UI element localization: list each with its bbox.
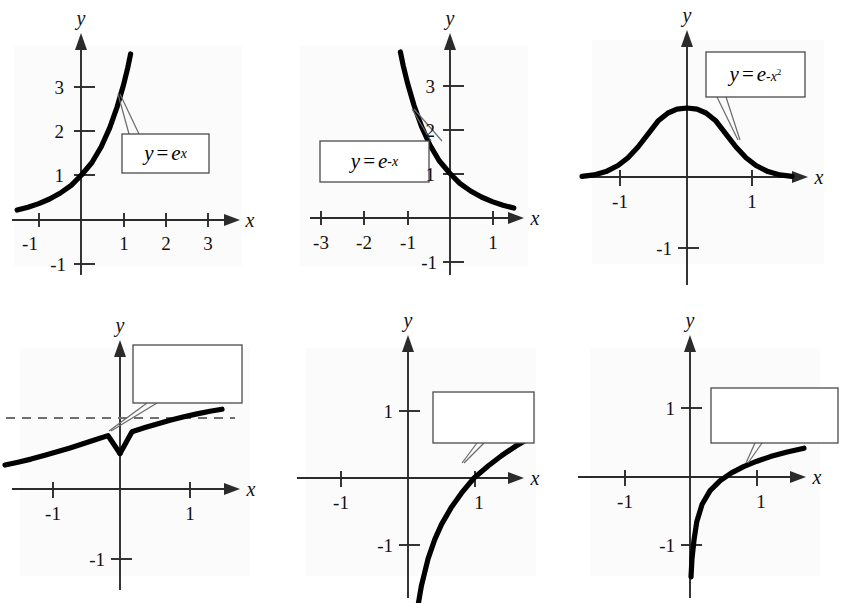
y-axis-label: y bbox=[444, 7, 455, 30]
x-tick-label: -3 bbox=[313, 232, 329, 253]
x-axis-logistic bbox=[12, 483, 240, 495]
leader-natural-log bbox=[462, 443, 484, 463]
callout-box-logistic bbox=[133, 345, 242, 403]
x-tick-label: 1 bbox=[747, 191, 757, 212]
x-tick-label: -1 bbox=[333, 492, 349, 513]
y-tick-label: 1 bbox=[666, 398, 676, 419]
callout-box-exp-x bbox=[122, 134, 209, 173]
curve-logistic bbox=[5, 436, 120, 465]
y-tick-label: 3 bbox=[55, 77, 65, 98]
x-tick-label: 1 bbox=[185, 503, 195, 524]
y-axis-label: y bbox=[75, 7, 86, 30]
x-tick-label: 1 bbox=[756, 491, 766, 512]
x-axis-exp-x bbox=[12, 214, 240, 226]
y-tick-label: 2 bbox=[55, 121, 65, 142]
y-tick-label: -1 bbox=[659, 535, 675, 556]
x-tick-label: 1 bbox=[474, 492, 484, 513]
y-axis-label: y bbox=[114, 314, 125, 337]
x-tick-label: -2 bbox=[356, 232, 372, 253]
y-ticks-exp-x bbox=[74, 87, 95, 264]
x-axis-label: x bbox=[245, 209, 255, 231]
x-axis-label: x bbox=[530, 207, 540, 229]
x-axis-label: x bbox=[246, 478, 256, 500]
panel-gaussian: -1 1 -1 x y y=e-x2 bbox=[566, 0, 848, 300]
curve-exp-x bbox=[17, 54, 130, 210]
y-tick-label: -1 bbox=[89, 549, 105, 570]
y-axis-label: y bbox=[681, 4, 692, 27]
x-tick-label: 2 bbox=[161, 233, 171, 254]
x-axis-natural-log bbox=[297, 472, 524, 484]
x-axis-label: x bbox=[814, 166, 824, 188]
y-axis-exp-neg-x bbox=[444, 33, 456, 275]
y-axis-logistic bbox=[114, 340, 126, 590]
callout-box-natural-log bbox=[433, 392, 534, 443]
curve-natural-log bbox=[418, 441, 525, 603]
y-tick-label: -1 bbox=[377, 535, 393, 556]
y-axis-label: y bbox=[684, 309, 695, 332]
x-tick-label: 1 bbox=[119, 233, 129, 254]
x-tick-label: -1 bbox=[45, 503, 61, 524]
y-tick-label: -1 bbox=[421, 252, 437, 273]
x-ticks-gaussian bbox=[620, 170, 752, 186]
x-axis-label: x bbox=[530, 467, 540, 489]
panel-logistic: -1 1 -1 x y y= 1 1+e-x bbox=[0, 300, 283, 603]
y-tick-label: -1 bbox=[656, 238, 672, 259]
panel-natural-log: -1 1 1 -1 x y y=lnx bbox=[283, 300, 566, 603]
x-axis-label: x bbox=[812, 466, 822, 488]
x-tick-label: 3 bbox=[203, 233, 213, 254]
curve-log-base-10 bbox=[691, 448, 804, 577]
y-tick-label: 1 bbox=[384, 401, 394, 422]
y-axis-label: y bbox=[402, 309, 413, 332]
x-tick-label: -1 bbox=[612, 191, 628, 212]
y-tick-label: -1 bbox=[50, 254, 66, 275]
x-tick-label: -1 bbox=[22, 233, 38, 254]
x-tick-label: -1 bbox=[617, 491, 633, 512]
y-axis-natural-log bbox=[402, 335, 414, 598]
y-tick-label: 1 bbox=[55, 165, 65, 186]
x-axis-log-base-10 bbox=[578, 471, 806, 483]
y-axis-gaussian bbox=[681, 30, 693, 285]
callout-box-gaussian bbox=[706, 52, 805, 97]
x-tick-label: 1 bbox=[488, 232, 498, 253]
x-axis-exp-neg-x bbox=[310, 212, 524, 224]
x-tick-label: -1 bbox=[400, 232, 416, 253]
y-axis-exp-x bbox=[75, 33, 87, 275]
y-tick-label: 3 bbox=[426, 76, 436, 97]
y-tick-label: 2 bbox=[426, 120, 436, 141]
y-tick-label: 1 bbox=[426, 164, 436, 185]
callout-box-log-base-10 bbox=[711, 388, 838, 443]
figure-exponential-logarithmic-graphs: -1 1 2 3 3 2 1 -1 x y y=ex bbox=[0, 0, 848, 603]
panel-log-base-10: -1 1 1 -1 x y y=log10x bbox=[566, 300, 848, 603]
x-ticks-logistic bbox=[53, 482, 190, 498]
panel-exp-x: -1 1 2 3 3 2 1 -1 x y y=ex bbox=[0, 0, 283, 300]
panel-exp-neg-x: -3 -2 -1 1 3 2 1 -1 x y y=e-x bbox=[283, 0, 566, 300]
callout-box-exp-neg-x bbox=[320, 141, 429, 182]
